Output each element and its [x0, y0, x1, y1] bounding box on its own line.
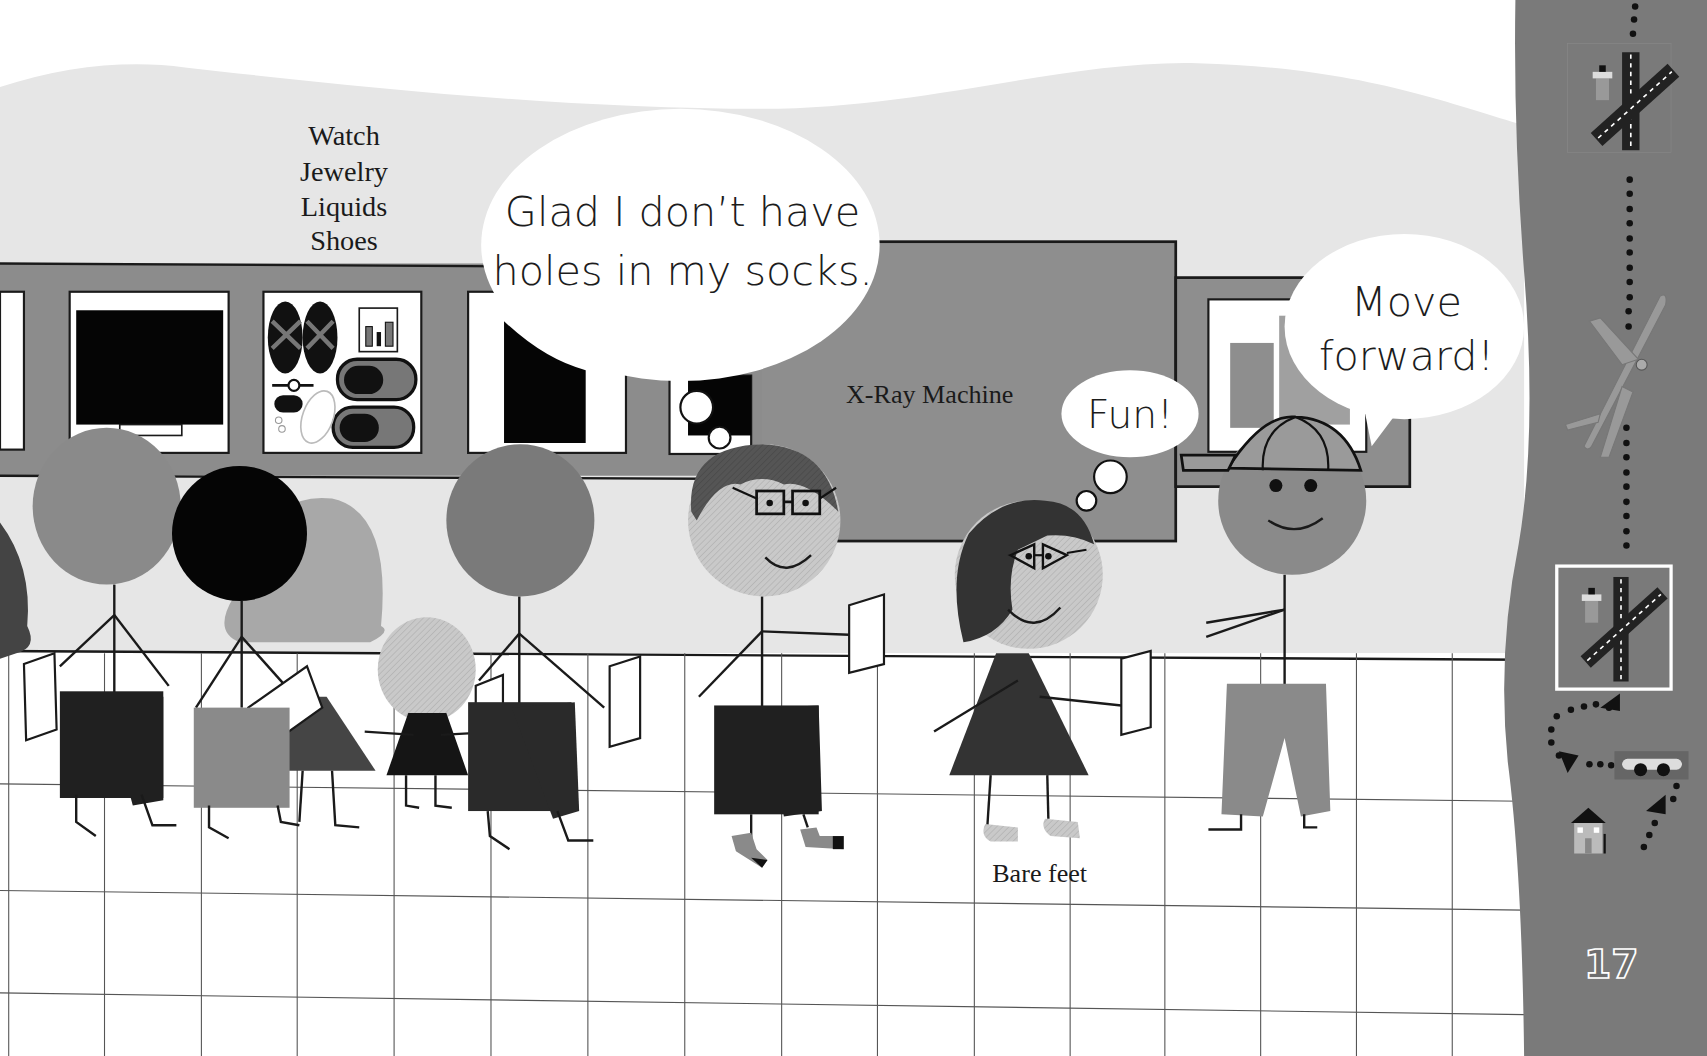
speech-bubble-socks: Glad I don’t have holes in my socks. [481, 109, 879, 381]
speech-line-1: Glad I don’t have [505, 188, 860, 236]
sign-line-shoes: Shoes [310, 225, 378, 256]
airport-runway-highlight-icon [1557, 566, 1671, 689]
illustration-scene: X-Ray Machine [0, 0, 1707, 1056]
speech-line-2: forward! [1319, 332, 1494, 380]
tray-shoes-jewelry-liquids [263, 292, 421, 453]
journey-sidebar: 17 [1504, 0, 1707, 1056]
thought-text: Fun! [1087, 392, 1173, 437]
airport-runway-icon [1568, 44, 1680, 153]
sign-line-watch: Watch [308, 120, 380, 151]
bare-feet-label: Bare feet [992, 859, 1088, 888]
speech-line-2: holes in my socks. [493, 247, 873, 295]
page-number: 17 [1584, 942, 1639, 987]
sign-line-liquids: Liquids [301, 191, 387, 222]
tray-laptop [70, 292, 229, 453]
tray-1 [0, 292, 24, 450]
xray-machine-label: X-Ray Machine [846, 380, 1013, 409]
speech-line-1: Move [1351, 278, 1462, 326]
tray-watch [670, 376, 752, 454]
sign-line-jewelry: Jewelry [300, 156, 389, 187]
car-icon [1614, 751, 1688, 779]
